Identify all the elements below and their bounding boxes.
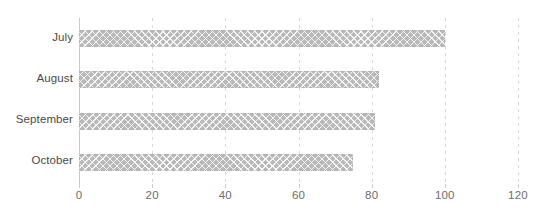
x-tick-label-20: 20 — [132, 189, 172, 201]
category-label-october: October — [0, 154, 73, 166]
x-tick-label-80: 80 — [352, 189, 392, 201]
category-label-july: July — [0, 31, 73, 43]
gridline-120 — [518, 18, 519, 183]
category-label-september: September — [0, 113, 73, 125]
x-tick-label-60: 60 — [279, 189, 319, 201]
x-tick-label-0: 0 — [59, 189, 99, 201]
x-tick-mark-0 — [79, 184, 80, 188]
x-tick-mark-20 — [152, 184, 153, 188]
x-tick-label-120: 120 — [498, 189, 538, 201]
category-label-august: August — [0, 72, 73, 84]
bar-chart: JulyAugustSeptemberOctober 0204060801001… — [0, 0, 551, 215]
x-tick-mark-120 — [518, 184, 519, 188]
x-tick-mark-60 — [299, 184, 300, 188]
x-tick-label-100: 100 — [425, 189, 465, 201]
bar-august[interactable] — [79, 71, 379, 88]
bar-october[interactable] — [79, 154, 353, 171]
bar-july[interactable] — [79, 30, 445, 47]
bar-september[interactable] — [79, 113, 375, 130]
bar-group — [79, 18, 518, 183]
x-tick-mark-40 — [225, 184, 226, 188]
x-tick-mark-100 — [445, 184, 446, 188]
x-tick-label-40: 40 — [205, 189, 245, 201]
x-tick-mark-80 — [372, 184, 373, 188]
